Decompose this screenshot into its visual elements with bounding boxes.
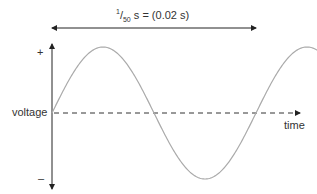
period-label: 1/50 s = (0.02 s) bbox=[116, 8, 189, 23]
voltage-label: voltage bbox=[12, 106, 47, 118]
minus-label: – bbox=[38, 172, 44, 184]
plus-label: + bbox=[37, 46, 43, 58]
sine-wave-diagram bbox=[0, 0, 317, 194]
time-label: time bbox=[284, 119, 305, 131]
